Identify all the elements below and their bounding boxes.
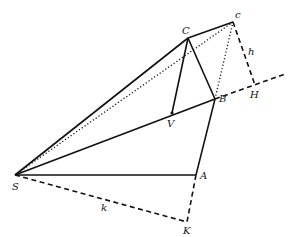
- label-k: k: [101, 202, 107, 213]
- segment-SB: [15, 99, 215, 175]
- segment-Bc-dotted: [215, 22, 233, 99]
- segment-BC: [188, 38, 215, 99]
- label-K: K: [182, 225, 191, 236]
- label-H: H: [249, 89, 259, 100]
- segment-AB: [196, 99, 215, 175]
- label-A: A: [199, 170, 207, 181]
- segment-Cc: [188, 22, 233, 38]
- label-C: C: [182, 25, 190, 36]
- segment-SK-dashed: [15, 175, 187, 222]
- segment-AK-dashed: [187, 175, 196, 222]
- label-c: c: [235, 9, 241, 20]
- segment-SC: [15, 38, 188, 175]
- label-B: B: [218, 93, 226, 104]
- segment-Sc-dotted: [15, 22, 233, 175]
- label-V: V: [167, 118, 176, 129]
- label-S: S: [12, 181, 19, 192]
- point-V-marker: [170, 111, 173, 114]
- label-h: h: [248, 46, 254, 57]
- geometry-diagram: S A K B C c H V h k: [0, 0, 290, 237]
